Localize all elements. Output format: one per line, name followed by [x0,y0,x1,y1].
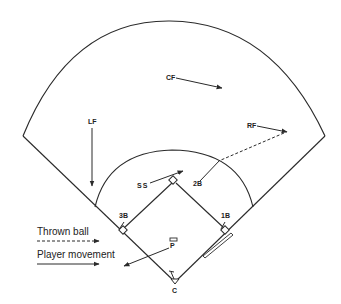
2b-movement-arrow [200,160,220,181]
label-lf: LF [88,118,97,125]
label-2b: 2B [193,180,202,187]
legend-player-movement-label: Player movement [37,249,115,260]
thrown-ball-rf-to-2b [221,133,284,160]
baseball-field-diagram: CF LF RF SS 2B 3B 1B P C Thrown ball Pla… [0,0,341,304]
legend: Thrown ball Player movement [37,226,115,264]
label-c: C [172,287,177,294]
basepath-2b-3b [124,183,172,228]
label-3b: 3B [119,212,128,219]
pitchers-rubber [170,238,177,241]
basepath-2b-1b [176,183,224,228]
third-base [119,226,127,234]
legend-thrown-ball-label: Thrown ball [37,226,89,237]
home-plate [171,279,179,284]
coach-box [203,233,233,258]
catcher-mark [169,271,174,279]
label-rf: RF [247,122,257,129]
ss-movement-arrow [150,171,183,183]
left-foul-line [23,136,175,282]
right-foul-line [175,136,325,282]
p-movement-arrow [124,248,169,266]
cf-movement-arrow [176,78,222,88]
second-base [169,176,177,184]
label-p: P [170,242,175,249]
label-1b: 1B [221,212,230,219]
label-ss: SS [137,182,148,189]
rf-movement-arrow [257,126,287,132]
label-cf: CF [166,74,176,81]
